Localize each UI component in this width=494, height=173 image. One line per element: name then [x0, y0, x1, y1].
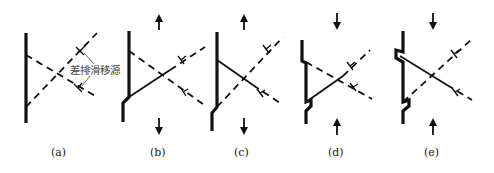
- panel-a: 差排滑移源 (a): [26, 33, 121, 159]
- crystal-surface-line: [212, 32, 217, 131]
- dislocation-icon: [181, 88, 188, 96]
- active-slip-line: [306, 76, 343, 102]
- slip-plane-2: [217, 37, 283, 107]
- annotation-leader: [84, 53, 94, 64]
- panel-label-b: (b): [150, 146, 166, 159]
- slip-mechanism-diagram: 差排滑移源 (a) (b): [0, 0, 494, 173]
- active-slip-line: [217, 60, 253, 85]
- crystal-surface-line: [396, 31, 409, 124]
- panel-d: (d): [302, 13, 372, 159]
- panel-label-d: (d): [328, 146, 344, 159]
- slip-plane-1: [447, 85, 472, 100]
- crystal-surface-line: [302, 40, 311, 124]
- slip-plane-1: [306, 62, 372, 99]
- panel-label-a: (a): [51, 146, 66, 159]
- slip-plane-1: [26, 55, 97, 97]
- panel-label-c: (c): [234, 146, 249, 159]
- slip-plane-1: [253, 85, 280, 103]
- panel-c: (c): [212, 18, 283, 159]
- crystal-surface-line: [123, 31, 129, 122]
- panel-label-e: (e): [424, 146, 439, 159]
- slip-plane-2: [170, 47, 205, 70]
- slip-plane-1: [129, 51, 207, 107]
- active-slip-line: [400, 56, 447, 85]
- panel-b: (b): [123, 18, 207, 159]
- active-slip-line: [129, 70, 170, 97]
- slip-plane-2: [403, 39, 472, 102]
- annotation-leader: [82, 76, 90, 86]
- panel-e: (e): [396, 13, 472, 159]
- slip-source-annotation: 差排滑移源: [70, 64, 121, 76]
